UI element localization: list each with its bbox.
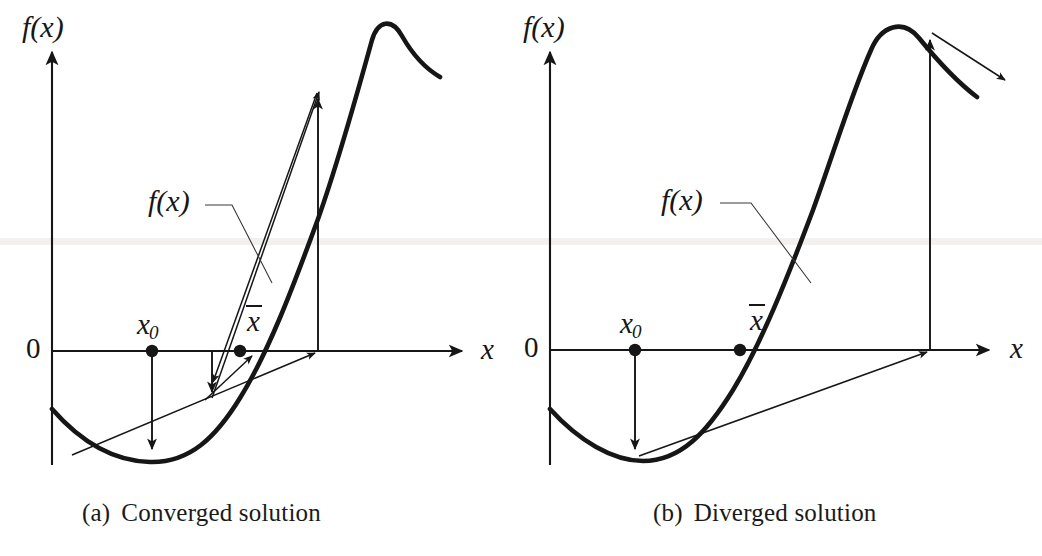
start-point-label-b: x0 bbox=[620, 309, 641, 341]
tangent-from-x0-to-axis-b bbox=[639, 352, 927, 456]
function-curve-b bbox=[550, 27, 977, 461]
caption-text-b: Diverged solution bbox=[694, 499, 877, 526]
caption-b: (b)Diverged solution bbox=[653, 499, 877, 527]
function-curve-a bbox=[52, 24, 440, 462]
panel-b-drawing bbox=[521, 0, 1042, 556]
point-x0-a bbox=[146, 345, 158, 357]
curve-callout-label-a: f(x) bbox=[148, 186, 190, 216]
root-label-b: x bbox=[750, 304, 763, 335]
start-point-subscript-b: 0 bbox=[632, 321, 642, 342]
figure-root: f(x) x 0 x0 x f(x) (a)Converged solution bbox=[0, 0, 1042, 556]
start-point-letter-a: x bbox=[137, 308, 150, 340]
y-axis-label-b: f(x) bbox=[523, 12, 565, 42]
origin-label-b: 0 bbox=[524, 333, 539, 362]
panel-a-drawing bbox=[0, 0, 521, 556]
root-letter-b: x bbox=[750, 304, 763, 335]
callout-leader-b bbox=[720, 203, 811, 283]
caption-a: (a)Converged solution bbox=[82, 499, 321, 527]
tangent-from-x1-down-a bbox=[213, 93, 317, 382]
point-xbar-a bbox=[234, 345, 246, 357]
point-xbar-b bbox=[734, 344, 746, 356]
caption-text-a: Converged solution bbox=[121, 499, 321, 526]
root-label-a: x bbox=[247, 305, 260, 336]
start-point-subscript-a: 0 bbox=[149, 322, 159, 343]
panel-diverged-solution: f(x) x 0 x0 x f(x) (b)Diverged solution bbox=[521, 0, 1042, 556]
tangent-diverging-b bbox=[932, 33, 1005, 80]
tangent-from-x0-to-axis-a bbox=[72, 353, 315, 455]
caption-tag-b: (b) bbox=[653, 499, 683, 526]
x-axis-label-b: x bbox=[1010, 334, 1023, 363]
point-x0-b bbox=[629, 344, 641, 356]
root-letter-a: x bbox=[247, 305, 260, 336]
origin-label-a: 0 bbox=[26, 334, 41, 363]
y-axis-label-a: f(x) bbox=[22, 12, 64, 42]
panel-converged-solution: f(x) x 0 x0 x f(x) (a)Converged solution bbox=[0, 0, 521, 556]
start-point-letter-b: x bbox=[620, 307, 633, 339]
caption-tag-a: (a) bbox=[82, 499, 110, 526]
curve-callout-label-b: f(x) bbox=[661, 185, 703, 215]
start-point-label-a: x0 bbox=[137, 310, 158, 342]
x-axis-label-a: x bbox=[481, 335, 494, 364]
